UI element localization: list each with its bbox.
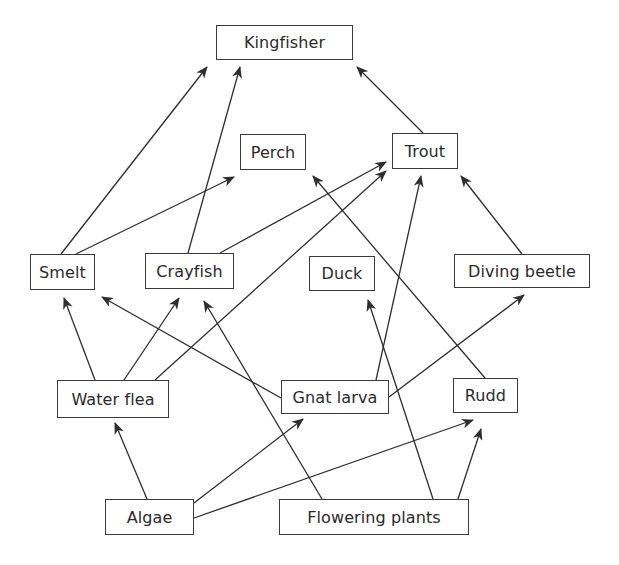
organism-label: Water flea bbox=[71, 390, 154, 409]
node-perch: Perch bbox=[240, 134, 306, 170]
arrow-smelt-to-perch bbox=[76, 177, 234, 254]
organism-label: Gnat larva bbox=[293, 388, 378, 407]
node-algae: Algae bbox=[105, 499, 194, 535]
organism-label: Smelt bbox=[39, 263, 86, 282]
arrow-algae-to-gnat-larva bbox=[194, 419, 303, 503]
organism-label: Kingfisher bbox=[244, 33, 325, 52]
arrow-algae-to-water-flea bbox=[115, 423, 147, 499]
arrow-gnat-larva-to-trout bbox=[376, 176, 421, 380]
node-smelt: Smelt bbox=[30, 254, 95, 290]
organism-label: Trout bbox=[405, 142, 445, 161]
node-gnat-larva: Gnat larva bbox=[281, 380, 389, 414]
organism-label: Crayfish bbox=[156, 262, 222, 281]
organism-label: Duck bbox=[322, 264, 363, 283]
node-water-flea: Water flea bbox=[57, 380, 169, 418]
organism-label: Diving beetle bbox=[468, 262, 576, 281]
organism-label: Rudd bbox=[465, 386, 506, 405]
node-diving-beetle: Diving beetle bbox=[454, 254, 590, 288]
node-kingfisher: Kingfisher bbox=[216, 25, 353, 60]
arrow-flowering-plants-to-rudd bbox=[458, 429, 481, 499]
arrow-crayfish-to-trout bbox=[220, 162, 386, 253]
node-rudd: Rudd bbox=[453, 378, 518, 413]
arrow-trout-to-kingfisher bbox=[357, 67, 423, 133]
organism-label: Perch bbox=[251, 143, 296, 162]
organism-label: Algae bbox=[127, 508, 173, 527]
food-web-diagram: Kingfisher Perch Trout Smelt Crayfish Du… bbox=[0, 0, 619, 565]
organism-label: Flowering plants bbox=[307, 508, 441, 527]
node-crayfish: Crayfish bbox=[145, 253, 234, 289]
arrow-water-flea-to-smelt bbox=[64, 298, 95, 380]
arrow-crayfish-to-kingfisher bbox=[188, 67, 240, 253]
node-duck: Duck bbox=[309, 256, 375, 291]
node-flowering-plants: Flowering plants bbox=[279, 499, 469, 535]
node-trout: Trout bbox=[392, 133, 458, 169]
arrow-water-flea-to-crayfish bbox=[124, 298, 179, 380]
arrow-diving-beetle-to-trout bbox=[461, 176, 522, 254]
